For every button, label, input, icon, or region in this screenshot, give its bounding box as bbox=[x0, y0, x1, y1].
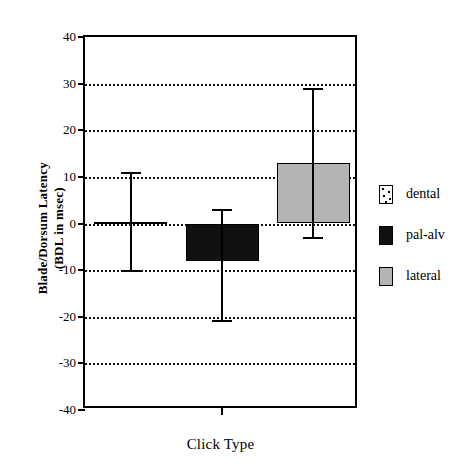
legend-label-dental: dental bbox=[406, 186, 440, 202]
y-tick-label: -40 bbox=[59, 402, 76, 418]
legend-label-lateral: lateral bbox=[406, 268, 441, 284]
gridline bbox=[85, 130, 355, 132]
error-bar-stem-pal-alv bbox=[221, 209, 223, 321]
chart-legend: dentalpal-alvlateral bbox=[379, 183, 468, 306]
error-bar-cap-lower-lateral bbox=[303, 237, 323, 239]
y-tick-label: -30 bbox=[59, 355, 76, 371]
y-tick-label: 40 bbox=[63, 29, 76, 45]
error-bar-cap-upper-pal-alv bbox=[212, 209, 232, 211]
y-tick-label: -20 bbox=[59, 309, 76, 325]
y-tick-label: -10 bbox=[59, 262, 76, 278]
gridline bbox=[85, 84, 355, 86]
y-tick-label: 30 bbox=[63, 76, 76, 92]
y-tick-mark bbox=[78, 269, 85, 271]
y-tick-label: 0 bbox=[70, 216, 77, 232]
legend-swatch-pal-alv bbox=[379, 226, 393, 245]
y-tick-mark bbox=[78, 83, 85, 85]
y-tick-mark bbox=[78, 409, 85, 411]
y-tick-mark bbox=[78, 223, 85, 225]
gridline bbox=[85, 363, 355, 365]
plot-area: 403020100-10-20-30-40 bbox=[83, 35, 357, 408]
y-tick-label: 20 bbox=[63, 122, 76, 138]
legend-item-pal-alv[interactable]: pal-alv bbox=[379, 224, 468, 246]
error-bar-cap-upper-lateral bbox=[303, 88, 323, 90]
y-tick-mark bbox=[78, 316, 85, 318]
gridline bbox=[85, 317, 355, 319]
y-tick-label: 10 bbox=[63, 169, 76, 185]
y-tick-mark bbox=[78, 36, 85, 38]
error-bar-stem-dental bbox=[130, 172, 132, 270]
error-bar-stem-lateral bbox=[312, 88, 314, 236]
bar-chart-figure: Blade/Dorsum Latency (BDL in msec) 40302… bbox=[0, 0, 468, 472]
error-bar-cap-upper-dental bbox=[121, 172, 141, 174]
y-tick-mark bbox=[78, 176, 85, 178]
legend-swatch-lateral bbox=[379, 267, 393, 286]
y-tick-mark bbox=[78, 129, 85, 131]
error-bar-cap-lower-dental bbox=[121, 270, 141, 272]
legend-label-pal-alv: pal-alv bbox=[406, 227, 445, 243]
x-tick-mark bbox=[221, 406, 223, 415]
legend-swatch-dental bbox=[379, 185, 393, 204]
legend-item-dental[interactable]: dental bbox=[379, 183, 468, 205]
error-bar-cap-lower-pal-alv bbox=[212, 320, 232, 322]
y-tick-mark bbox=[78, 362, 85, 364]
legend-item-lateral[interactable]: lateral bbox=[379, 265, 468, 287]
x-axis-title: Click Type bbox=[83, 436, 358, 453]
